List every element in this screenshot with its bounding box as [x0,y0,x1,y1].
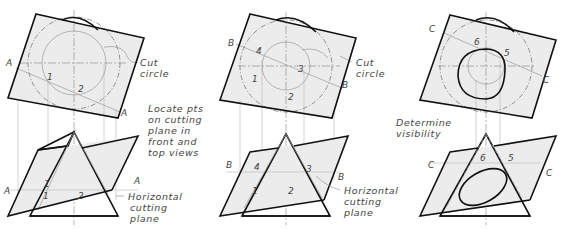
label-b-front-left: B [226,160,232,170]
step-note-c: Determine visibility [396,117,452,139]
intersection-diagram: A A 1 2 Cut circle A A 1 1 2 Horizo [0,0,563,230]
point-2-front: 2 [78,191,84,201]
label-a-front-right: A [133,176,140,186]
label-a-front-left: A [3,186,10,196]
cut-circle-label-2: circle [140,68,169,79]
point-6-top: 6 [474,37,480,47]
svg-text:plane in: plane in [147,125,191,136]
svg-text:top views: top views [148,147,199,158]
svg-text:on cutting: on cutting [148,114,202,125]
point-6-front: 6 [480,153,486,163]
point-1-top: 1 [47,72,53,82]
horizontal-plane-label-2: cutting [130,202,168,213]
label-c-top-left: C [429,24,436,34]
point-5-front: 5 [508,153,514,163]
horizontal-plane-b-2: cutting [344,196,382,207]
horizontal-plane-label-3: plane [129,213,159,224]
view-c-front: C C 6 5 [420,134,556,216]
label-a-top-right: A [120,108,127,118]
point-3-top: 3 [298,64,304,74]
label-a-top-left: A [5,58,12,68]
point-1-front-b: 1 [252,186,258,196]
label-b-front-right: B [338,172,344,182]
cut-circle-b-2: circle [356,68,385,79]
point-1-front-upper: 1 [44,179,50,189]
point-3-front: 3 [306,164,312,174]
cut-circle-b-1: Cut [356,57,375,68]
svg-text:Determine: Determine [396,117,452,128]
point-2-top: 2 [78,84,84,94]
horizontal-plane-b-3: plane [343,207,373,218]
view-c: C C 6 5 C C 6 5 Determine visibility [396,12,556,225]
view-a: A A 1 2 Cut circle A A 1 1 2 Horizo [3,10,203,225]
horizontal-plane-b-1: Horizontal [344,185,399,196]
point-4-front: 4 [254,162,260,172]
svg-text:Locate pts: Locate pts [148,103,203,114]
point-4-top: 4 [256,46,262,56]
label-b-top-right: B [342,80,348,90]
point-2-top-b: 2 [288,92,294,102]
point-1-front-lower: 1 [43,191,49,201]
point-5-top: 5 [504,48,510,58]
step-note-a: Locate pts on cutting plane in front and… [147,103,203,158]
label-c-front-right: C [546,168,553,178]
view-b: B B 4 3 1 2 Cut circle B B 4 3 1 2 Horiz… [220,12,399,225]
label-c-top-right: C [543,75,550,85]
label-b-top-left: B [228,38,234,48]
label-c-front-left: C [428,160,435,170]
svg-text:front and: front and [148,136,197,147]
point-2-front-b: 2 [288,186,294,196]
point-1-top-b: 1 [252,74,258,84]
horizontal-plane-label-1: Horizontal [128,191,183,202]
cut-circle-label-1: Cut [140,57,159,68]
svg-text:visibility: visibility [396,128,441,139]
view-b-front: B B 4 3 1 2 Horizontal cutting plane [220,134,399,218]
